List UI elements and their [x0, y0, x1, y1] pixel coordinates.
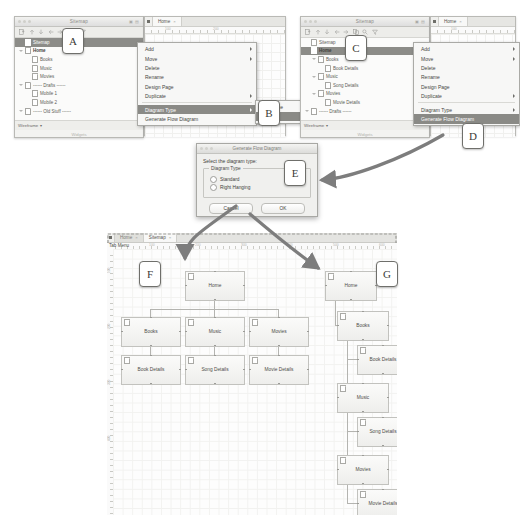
right-hanging-diagram-node[interactable]: Books [337, 311, 389, 341]
standard-diagram-node[interactable]: Book Details [121, 355, 181, 385]
connection-handle[interactable] [150, 317, 152, 319]
connection-handle[interactable] [249, 331, 251, 333]
radio-right-hanging-icon[interactable] [210, 184, 217, 191]
diagram-canvas[interactable]: HomeBooksMusicMoviesBook DetailsSong Det… [113, 249, 397, 516]
context-menu-left-item[interactable]: Rename [138, 73, 256, 82]
standard-diagram-node[interactable]: Movie Details [249, 355, 309, 385]
close-icon[interactable]: × [459, 19, 462, 24]
connection-handle[interactable] [387, 397, 389, 399]
tree-right-item-row[interactable]: ------ Drafts ------ [301, 107, 429, 116]
connection-handle[interactable] [382, 445, 384, 447]
connection-handle[interactable] [382, 489, 384, 491]
editor-tab-home-left[interactable]: Home × [153, 17, 182, 26]
connection-handle[interactable] [179, 369, 181, 371]
tab-menu-button-main[interactable] [107, 233, 115, 242]
standard-diagram-node[interactable]: Books [121, 317, 181, 347]
tree-right-item-row[interactable]: Book Details [301, 64, 429, 73]
widgets-tab-right[interactable]: Widgets [357, 132, 372, 137]
right-hanging-diagram-node[interactable]: Book Details [357, 345, 397, 375]
connection-handle[interactable] [150, 355, 152, 357]
connection-handle[interactable] [150, 383, 152, 385]
editor-tab-home-right[interactable]: Home × [439, 17, 468, 26]
connection-handle[interactable] [214, 317, 216, 319]
indent-left-icon[interactable] [334, 29, 340, 35]
connection-handle[interactable] [357, 359, 359, 361]
disclosure-triangle-icon[interactable] [19, 83, 23, 87]
window-controls-right[interactable] [304, 20, 317, 23]
tree-left-item-row[interactable]: ------ Old Stuff ------ [15, 107, 143, 116]
connection-handle[interactable] [278, 355, 280, 357]
tree-right-item-row[interactable]: Movie Details [301, 98, 429, 107]
standard-diagram-node[interactable]: Music [185, 317, 245, 347]
connection-handle[interactable] [243, 331, 245, 333]
connection-handle[interactable] [362, 383, 364, 385]
connection-handle[interactable] [243, 285, 245, 287]
add-page-icon[interactable] [305, 29, 311, 35]
tab-sitemap[interactable]: Sitemap × [144, 233, 177, 242]
tree-left-item-row[interactable]: Books [15, 55, 143, 64]
context-menu-left-item[interactable]: Delete [138, 63, 256, 72]
context-menu-right[interactable]: AddMoveDeleteRenameDesign PageDuplicateD… [413, 42, 520, 126]
window-controls-left[interactable] [18, 20, 31, 23]
window-title-icons-left[interactable]: ▣ ▤ [129, 20, 139, 24]
add-page-icon[interactable] [19, 29, 25, 35]
context-menu-left-item[interactable]: Generate Flow Diagram [138, 114, 256, 123]
connection-handle[interactable] [337, 469, 339, 471]
connection-handle[interactable] [337, 397, 339, 399]
close-icon[interactable]: × [135, 235, 138, 240]
connection-handle[interactable] [185, 369, 187, 371]
move-up-icon[interactable] [29, 29, 35, 35]
disclosure-triangle-icon[interactable] [305, 109, 309, 113]
context-menu-right-item[interactable]: Add [414, 45, 519, 54]
connection-handle[interactable] [325, 285, 327, 287]
standard-diagram-node[interactable]: Movies [249, 317, 309, 347]
right-hanging-diagram-node[interactable]: Home [325, 271, 377, 301]
standard-diagram-node[interactable]: Song Details [185, 355, 245, 385]
tree-left-item-row[interactable]: Mobile 2 [15, 98, 143, 107]
right-hanging-diagram-node[interactable]: Song Details [357, 417, 397, 447]
connection-handle[interactable] [121, 369, 123, 371]
connection-handle[interactable] [350, 299, 352, 301]
connection-handle[interactable] [362, 455, 364, 457]
right-hanging-diagram-node[interactable]: Movie Details [357, 489, 397, 516]
connection-handle[interactable] [362, 411, 364, 413]
tree-right-item-row[interactable]: Music [301, 72, 429, 81]
tree-right-item-row[interactable]: Song Details [301, 81, 429, 90]
standard-diagram-node[interactable]: Home [185, 271, 245, 301]
disclosure-triangle-icon[interactable] [312, 75, 316, 79]
disclosure-triangle-icon[interactable] [19, 49, 23, 53]
disclosure-triangle-icon[interactable] [312, 57, 316, 61]
right-hanging-diagram-node[interactable]: Movies [337, 455, 389, 485]
connection-handle[interactable] [243, 369, 245, 371]
connection-handle[interactable] [337, 325, 339, 327]
move-up-icon[interactable] [315, 29, 321, 35]
tree-right-item-row[interactable]: Movies [301, 90, 429, 99]
ok-button[interactable]: OK [261, 203, 305, 214]
tree-left-item-row[interactable]: ------ Drafts ------ [15, 81, 143, 90]
context-menu-right-item[interactable]: Delete [414, 63, 519, 72]
context-menu-right-item[interactable]: Diagram Type [414, 105, 519, 114]
chevron-down-icon[interactable]: ▾ [326, 123, 328, 128]
connection-handle[interactable] [214, 299, 216, 301]
connection-handle[interactable] [121, 331, 123, 333]
context-menu-left-item[interactable]: Add [138, 45, 256, 54]
connection-handle[interactable] [185, 331, 187, 333]
move-down-icon[interactable] [38, 29, 44, 35]
connection-handle[interactable] [185, 285, 187, 287]
connection-handle[interactable] [350, 271, 352, 273]
disclosure-triangle-icon[interactable] [312, 92, 316, 96]
connection-handle[interactable] [387, 469, 389, 471]
connection-handle[interactable] [278, 383, 280, 385]
connection-handle[interactable] [357, 503, 359, 505]
connection-handle[interactable] [382, 345, 384, 347]
connection-handle[interactable] [150, 345, 152, 347]
connection-handle[interactable] [214, 355, 216, 357]
connection-handle[interactable] [307, 331, 309, 333]
connection-handle[interactable] [278, 345, 280, 347]
connection-handle[interactable] [357, 431, 359, 433]
context-menu-right-item[interactable]: Move [414, 54, 519, 63]
connection-handle[interactable] [362, 339, 364, 341]
connection-handle[interactable] [214, 383, 216, 385]
context-menu-right-item[interactable]: Design Page [414, 82, 519, 91]
close-icon[interactable]: × [169, 235, 172, 240]
